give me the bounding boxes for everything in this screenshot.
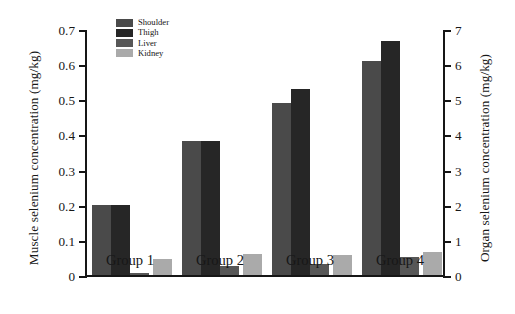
left-axis-tick-label: 0.5 [59,94,75,107]
legend-label: Liver [138,39,157,48]
left-axis-tick [79,276,87,278]
right-axis-tick [443,30,451,32]
legend-swatch-icon [116,29,133,37]
left-axis-tick [79,171,87,173]
left-axis-tick-label: 0.6 [59,59,75,72]
legend-label: Thigh [138,28,159,37]
right-axis-tick-label: 1 [455,235,462,248]
left-axis-tick-label: 0.4 [59,129,75,142]
left-axis-tick [79,65,87,67]
right-axis-tick [443,135,451,137]
right-axis-tick [443,171,451,173]
right-axis-tick-label: 2 [455,200,462,213]
right-axis-tick [443,206,451,208]
bar [291,89,310,275]
chart-legend: ShoulderThighLiverKidney [116,18,169,59]
right-axis-title: Organ selenium concentration (mg/kg) [477,28,493,288]
legend-label: Kidney [138,49,163,58]
bar-series-container [87,31,443,275]
right-axis-tick [443,65,451,67]
legend-swatch-icon [116,49,133,57]
legend-swatch-icon [116,39,133,47]
left-axis-tick-label: 0.2 [59,200,75,213]
group-label: Group 1 [85,252,175,269]
right-axis-tick-label: 7 [455,24,462,37]
left-axis-title: Muscle selenium concentration (mg/kg) [26,28,42,288]
legend-label: Shoulder [138,18,169,27]
selenium-concentration-bar-chart: Muscle selenium concentration (mg/kg) Or… [0,0,515,314]
left-axis-tick [79,30,87,32]
legend-item: Thigh [116,28,169,38]
group-label: Group 3 [265,252,355,269]
left-axis-tick [79,241,87,243]
right-axis-tick-label: 4 [455,129,462,142]
bar [130,273,149,275]
bar [272,103,291,275]
legend-swatch-icon [116,19,133,27]
left-axis-tick-label: 0.3 [59,165,75,178]
bar [362,61,381,275]
left-axis-tick [79,135,87,137]
right-axis-tick-label: 5 [455,94,462,107]
left-axis-tick-label: 0.1 [59,235,75,248]
left-axis-tick-label: 0 [68,270,75,283]
right-axis-tick [443,241,451,243]
plot-area: 00.10.20.30.40.50.60.7 01234567 [85,31,445,277]
legend-item: Kidney [116,49,169,59]
left-axis-tick-label: 0.7 [59,24,75,37]
right-axis-tick [443,276,451,278]
legend-item: Shoulder [116,18,169,28]
left-axis-tick [79,206,87,208]
legend-item: Liver [116,38,169,48]
right-axis-tick [443,100,451,102]
bar [381,41,400,275]
left-axis-tick [79,100,87,102]
right-axis-tick-label: 6 [455,59,462,72]
right-axis-tick-label: 0 [455,270,462,283]
group-label: Group 2 [175,252,265,269]
group-label: Group 4 [355,252,445,269]
right-axis-tick-label: 3 [455,165,462,178]
